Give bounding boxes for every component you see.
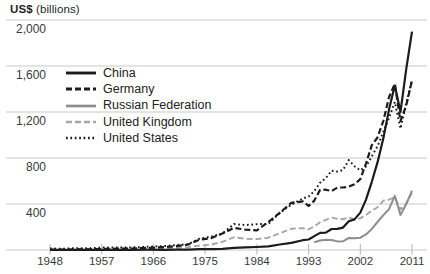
legend-item-united-states: United States	[66, 130, 211, 146]
x-tick-label-1993: 1993	[296, 255, 322, 267]
legend-swatch-germany-line	[66, 86, 96, 92]
y-axis-title-unit: US$	[10, 3, 33, 15]
chart-legend: ChinaGermanyRussian FederationUnited Kin…	[66, 65, 211, 146]
x-tick-label-1948: 1948	[37, 255, 63, 267]
legend-item-china: China	[66, 65, 211, 81]
x-tick-label-1957: 1957	[89, 255, 115, 267]
x-tick-label-1975: 1975	[192, 255, 218, 267]
y-tick-label-800: 800	[26, 160, 46, 174]
x-tick-label-1984: 1984	[244, 255, 270, 267]
line-chart-canvas: 2,0001,6001,2008004001948195719661975198…	[0, 0, 430, 274]
y-tick-label-1200: 1,200	[16, 114, 46, 128]
y-tick-label-1600: 1,600	[16, 68, 46, 82]
x-tick-label-2002: 2002	[348, 255, 374, 267]
legend-label: Germany	[103, 83, 154, 96]
series-line-united-kingdom	[50, 193, 412, 249]
legend-swatch-china-line	[66, 70, 96, 76]
export-line-chart: 2,0001,6001,2008004001948195719661975198…	[0, 0, 430, 274]
legend-swatch-russian-federation-line	[66, 103, 96, 109]
y-axis-title: US$ (billions)	[10, 3, 80, 15]
legend-item-germany: Germany	[66, 81, 211, 97]
legend-item-russian-federation: Russian Federation	[66, 98, 211, 114]
x-tick-label-2011: 2011	[400, 255, 425, 267]
legend-label: China	[103, 67, 136, 80]
legend-item-united-kingdom: United Kingdom	[66, 114, 211, 130]
legend-label: United States	[103, 132, 178, 145]
y-tick-label-2000: 2,000	[16, 22, 46, 36]
y-tick-label-400: 400	[26, 206, 46, 220]
x-tick-label-1966: 1966	[141, 255, 167, 267]
legend-label: Russian Federation	[103, 99, 211, 112]
legend-swatch-united-states-line	[66, 135, 96, 141]
legend-label: United Kingdom	[103, 116, 192, 129]
legend-swatch-united-kingdom-line	[66, 119, 96, 125]
y-axis-title-qualifier: (billions)	[36, 3, 80, 15]
